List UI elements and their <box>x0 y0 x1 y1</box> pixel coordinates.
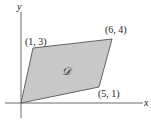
y-axis-label: y <box>16 1 22 12</box>
vertex-label-5-1: (5, 1) <box>98 88 120 100</box>
vertex-label-6-4: (6, 4) <box>105 24 127 36</box>
parallelogram-diagram: y x (1, 3) (6, 4) (5, 1) 𝒟 <box>0 0 151 124</box>
x-axis-label: x <box>143 97 149 108</box>
vertex-label-1-3: (1, 3) <box>25 36 47 48</box>
